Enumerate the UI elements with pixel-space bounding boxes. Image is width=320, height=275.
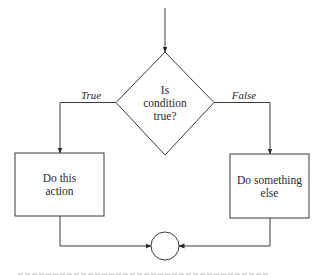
false-action-line-2: else: [230, 187, 309, 200]
true-merge-connector: [60, 216, 151, 246]
decision-line-2: condition: [125, 97, 205, 110]
false-action-label: Do something else: [230, 174, 309, 200]
cropped-caption: [18, 270, 268, 275]
decision-line-3: true?: [125, 110, 205, 123]
true-action-label: Do this action: [15, 172, 104, 198]
false-merge-connector: [179, 218, 270, 246]
decision-label: Is condition true?: [125, 84, 205, 123]
flowchart-canvas: [0, 0, 320, 275]
true-action-line-1: Do this: [15, 172, 104, 185]
merge-circle: [151, 232, 179, 260]
true-action-line-2: action: [15, 185, 104, 198]
false-action-line-1: Do something: [230, 174, 309, 187]
false-edge-label: False: [228, 89, 260, 102]
true-branch-connector: [60, 103, 116, 154]
decision-line-1: Is: [125, 84, 205, 97]
false-branch-connector: [214, 103, 270, 155]
true-edge-label: True: [76, 89, 106, 102]
